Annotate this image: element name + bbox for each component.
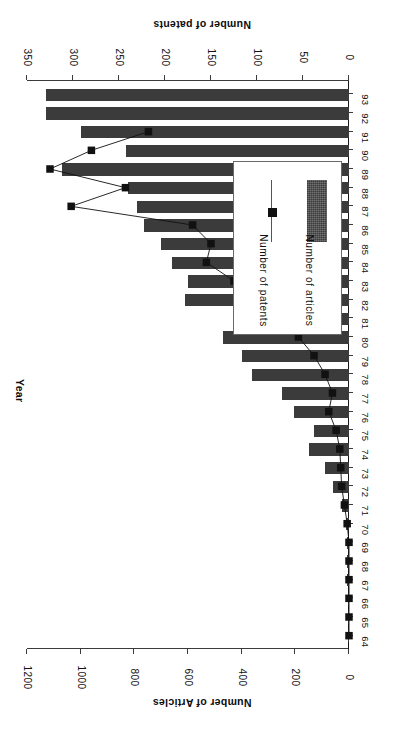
axis-tick [26, 75, 27, 80]
axis-tick [26, 649, 27, 654]
year-tick-label: 93 [360, 86, 371, 106]
year-tick [349, 112, 353, 113]
year-tick-label: 91 [360, 123, 371, 143]
axis-tick [348, 75, 349, 80]
patents-marker [341, 501, 349, 509]
year-tick-label: 73 [360, 459, 371, 479]
year-tick [349, 504, 353, 505]
chart-legend: Number of articles Number of patents [233, 161, 342, 335]
axis-tick-label: 0 [344, 664, 355, 692]
year-tick-label: 88 [360, 179, 371, 199]
year-tick-label: 75 [360, 422, 371, 442]
axis-tick-label: 250 [114, 44, 125, 72]
patents-marker [67, 203, 75, 211]
axis-tick [80, 649, 81, 654]
year-tick-label: 69 [360, 534, 371, 554]
year-tick [349, 411, 353, 412]
patents-marker [329, 389, 337, 397]
patents-marker [332, 427, 340, 435]
year-tick [349, 149, 353, 150]
patents-marker [310, 352, 318, 360]
year-tick [349, 429, 353, 430]
axis-tick [210, 75, 211, 80]
axis-tick-label: 350 [22, 44, 33, 72]
legend-label-patents: Number of patents [258, 228, 269, 334]
articles-axis-line [27, 648, 349, 649]
chart-figure: Number of Articles Number of patents Yea… [0, 0, 404, 731]
year-tick-label: 68 [360, 553, 371, 573]
axis-tick-label: 0 [344, 44, 355, 72]
year-tick-label: 72 [360, 478, 371, 498]
patents-marker [345, 539, 353, 547]
year-tick-label: 65 [360, 609, 371, 629]
year-tick-label: 71 [360, 497, 371, 517]
axis-tick-label: 50 [298, 44, 309, 72]
patents-axis-title: Number of patents [0, 19, 404, 31]
patents-axis-line [27, 80, 349, 81]
year-tick-label: 77 [360, 385, 371, 405]
year-tick [349, 280, 353, 281]
year-tick-label: 76 [360, 403, 371, 423]
axis-tick [133, 649, 134, 654]
year-tick [349, 93, 353, 94]
axis-tick-label: 200 [290, 664, 301, 692]
patents-marker [203, 259, 211, 267]
year-tick-label: 79 [360, 347, 371, 367]
year-tick [349, 392, 353, 393]
axis-tick-label: 200 [160, 44, 171, 72]
axis-tick-label: 150 [206, 44, 217, 72]
year-tick [349, 467, 353, 468]
patents-marker [337, 464, 345, 472]
patents-marker [88, 147, 96, 155]
year-tick-label: 81 [360, 310, 371, 330]
axis-tick-label: 1200 [22, 664, 33, 692]
year-tick-label: 70 [360, 515, 371, 535]
year-tick-label: 80 [360, 329, 371, 349]
year-tick-label: 82 [360, 291, 371, 311]
year-tick-label: 67 [360, 571, 371, 591]
year-tick [349, 448, 353, 449]
axis-tick-label: 800 [129, 664, 140, 692]
patents-marker [345, 576, 353, 584]
patents-marker [336, 445, 344, 453]
year-tick [349, 336, 353, 337]
axis-tick [348, 649, 349, 654]
year-tick-label: 90 [360, 142, 371, 162]
axis-tick [241, 649, 242, 654]
patents-marker [207, 240, 215, 248]
year-tick-label: 83 [360, 273, 371, 293]
patents-marker [338, 483, 346, 491]
year-tick-label: 87 [360, 198, 371, 218]
patents-marker [343, 520, 351, 528]
year-tick [349, 317, 353, 318]
patents-marker [325, 408, 333, 416]
legend-label-articles: Number of articles [304, 228, 315, 334]
legend-square-marker-icon [268, 208, 277, 217]
year-tick [349, 299, 353, 300]
axis-tick [187, 649, 188, 654]
year-tick-label: 78 [360, 366, 371, 386]
patents-marker [189, 221, 197, 229]
patents-marker [345, 613, 353, 621]
axis-tick-label: 1000 [75, 664, 86, 692]
year-tick-label: 74 [360, 441, 371, 461]
year-axis-title: Year [14, 379, 26, 402]
year-tick [349, 355, 353, 356]
axis-tick-label: 300 [68, 44, 79, 72]
year-tick [349, 485, 353, 486]
year-tick-label: 66 [360, 590, 371, 610]
articles-axis-title: Number of Articles [0, 697, 404, 709]
year-tick-label: 84 [360, 254, 371, 274]
year-tick [349, 205, 353, 206]
patents-marker [345, 632, 353, 640]
year-tick [349, 243, 353, 244]
legend-item-patents: Number of patents [243, 172, 283, 324]
year-tick-label: 64 [360, 627, 371, 647]
patents-marker [122, 184, 130, 192]
year-tick [349, 224, 353, 225]
patents-marker [345, 557, 353, 565]
year-tick-label: 92 [360, 105, 371, 125]
year-tick [349, 131, 353, 132]
axis-tick [164, 75, 165, 80]
axis-tick [302, 75, 303, 80]
